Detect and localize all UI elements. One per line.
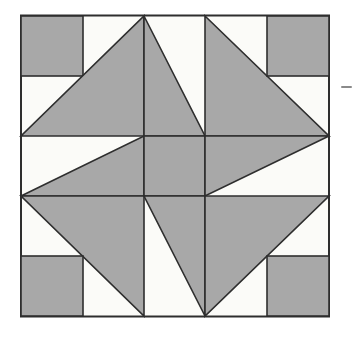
page-background bbox=[0, 0, 352, 337]
corner-square-top-right bbox=[267, 16, 329, 76]
corner-square-top-left bbox=[21, 16, 83, 76]
center-square bbox=[144, 136, 205, 196]
margin-dash bbox=[341, 86, 352, 88]
corner-square-bottom-right bbox=[267, 256, 329, 316]
corner-square-bottom-left bbox=[21, 256, 83, 316]
quilt-block-pattern bbox=[0, 0, 352, 337]
